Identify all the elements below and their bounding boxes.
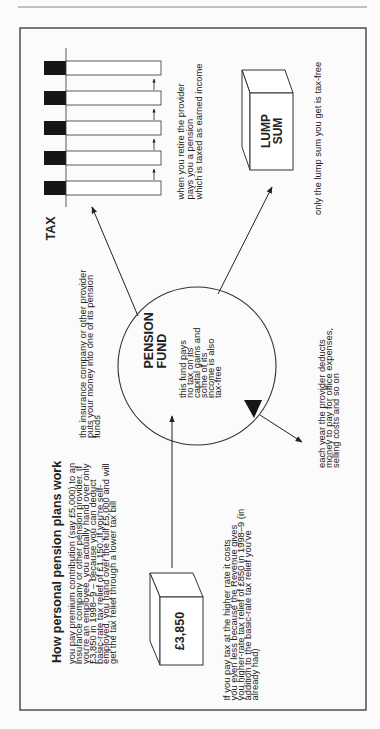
tax-label: TAX: [45, 213, 58, 241]
arrow-fund-to-lump-sum: [218, 187, 272, 294]
tax-bar: [44, 61, 161, 75]
page-title: How personal pension plans work: [50, 470, 65, 663]
tax-bars-chart: [44, 48, 161, 207]
tax-bar: [44, 151, 161, 165]
lump-sum-note: only the lump sum you get is tax-free: [313, 43, 323, 215]
tax-bar: [44, 181, 161, 195]
pension-fund-description: this fund pays no tax on its capital gai…: [179, 318, 221, 398]
higher-rate-note: If you pay tax at the higher rate it cos…: [224, 515, 261, 701]
intro-paragraph: you pay premium contribution (say £5,000…: [69, 454, 119, 664]
tax-bar: [44, 121, 161, 135]
tax-bar: [44, 91, 161, 105]
lump-sum-label: LUMP SUM: [260, 111, 284, 151]
payment-amount-label: £3,850: [174, 601, 188, 661]
provider-note: the insurance company or other provider …: [80, 255, 103, 438]
charges-note: each year the provider deducts money to …: [319, 335, 342, 468]
pension-fund-title: PENSION FUND: [143, 319, 170, 369]
pension-payment-note: when you retire the provider pays you a …: [176, 58, 203, 200]
arrow-fund-charges: [260, 415, 302, 442]
